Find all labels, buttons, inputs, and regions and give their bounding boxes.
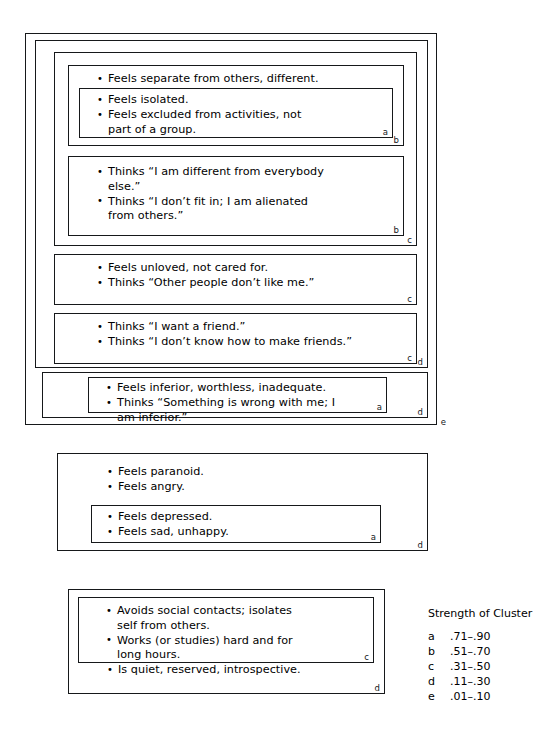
list-item: Feels paranoid. bbox=[107, 465, 407, 480]
legend-letter: e bbox=[428, 690, 450, 705]
item-list-g2-a: Feels depressed. Feels sad, unhappy. bbox=[107, 510, 367, 540]
legend-row: c .31–.50 bbox=[428, 660, 491, 675]
list-item: Thinks “I am different from everybody el… bbox=[97, 165, 397, 194]
list-item: Feels inferior, worthless, inadequate. bbox=[106, 381, 376, 396]
cluster-tag-g2-a: a bbox=[371, 533, 376, 542]
item-list-b-top: Feels separate from others, different. bbox=[97, 72, 397, 87]
list-item: Feels sad, unhappy. bbox=[107, 525, 367, 540]
list-item: Thinks “I want a friend.” bbox=[97, 320, 407, 335]
item-list-g3-c: Avoids social contacts; isolates self fr… bbox=[106, 604, 356, 663]
legend-letter: b bbox=[428, 645, 450, 660]
list-item: Feels angry. bbox=[107, 480, 407, 495]
legend-range: .11–.30 bbox=[450, 675, 491, 690]
list-item: Thinks “I don’t know how to make friends… bbox=[97, 335, 407, 350]
cluster-tag-c-upper: c bbox=[407, 236, 412, 245]
cluster-tag-a-bottom: a bbox=[377, 403, 382, 412]
list-item: Feels separate from others, different. bbox=[97, 72, 397, 87]
cluster-tag-g2-d: d bbox=[418, 541, 423, 550]
list-item: Feels isolated. bbox=[97, 93, 382, 108]
cluster-tag-b-top: b bbox=[394, 136, 399, 145]
item-list-g3-d: Is quiet, reserved, introspective. bbox=[107, 663, 367, 678]
cluster-box-g3-c: c Avoids social contacts; isolates self … bbox=[78, 597, 374, 663]
cluster-tag-e: e bbox=[441, 418, 446, 427]
legend-letter: c bbox=[428, 660, 450, 675]
legend-range: .01–.10 bbox=[450, 690, 491, 705]
cluster-box-a-top: a Feels isolated. Feels excluded from ac… bbox=[79, 88, 393, 138]
list-item: Thinks “I don’t fit in; I am alienated f… bbox=[97, 195, 397, 224]
list-item: Works (or studies) hard and for long hou… bbox=[106, 634, 356, 663]
legend-letter: d bbox=[428, 675, 450, 690]
item-list-c-third: Feels unloved, not cared for. Thinks “Ot… bbox=[97, 261, 407, 291]
legend-row: b .51–.70 bbox=[428, 645, 491, 660]
cluster-tag-c-fourth: c bbox=[407, 354, 412, 363]
legend-table: a .71–.90 b .51–.70 c .31–.50 d .11–.30 … bbox=[428, 630, 491, 705]
item-list-a-top: Feels isolated. Feels excluded from acti… bbox=[97, 93, 382, 138]
legend-row: d .11–.30 bbox=[428, 675, 491, 690]
list-item: Avoids social contacts; isolates self fr… bbox=[106, 604, 356, 633]
cluster-tag-g3-c: c bbox=[364, 653, 369, 662]
cluster-tag-a-top: a bbox=[383, 128, 388, 137]
cluster-box-c-third: c Feels unloved, not cared for. Thinks “… bbox=[54, 254, 417, 305]
list-item: Feels depressed. bbox=[107, 510, 367, 525]
item-list-c-fourth: Thinks “I want a friend.” Thinks “I don’… bbox=[97, 320, 407, 350]
legend-row: e .01–.10 bbox=[428, 690, 491, 705]
item-list-a-bottom: Feels inferior, worthless, inadequate. T… bbox=[106, 381, 376, 426]
cluster-box-g2-a: a Feels depressed. Feels sad, unhappy. bbox=[91, 505, 381, 543]
cluster-tag-b-second: b bbox=[394, 226, 399, 235]
list-item: Thinks “Something is wrong with me; I am… bbox=[106, 396, 376, 425]
legend: Strength of Cluster a .71–.90 b .51–.70 … bbox=[428, 607, 532, 705]
cluster-tag-g3-d: d bbox=[375, 684, 380, 693]
legend-title: Strength of Cluster bbox=[428, 607, 532, 620]
legend-row: a .71–.90 bbox=[428, 630, 491, 645]
list-item: Is quiet, reserved, introspective. bbox=[107, 663, 367, 678]
legend-letter: a bbox=[428, 630, 450, 645]
cluster-tag-d-lower: d bbox=[418, 408, 423, 417]
cluster-tag-d-upper: d bbox=[418, 358, 423, 367]
legend-range: .51–.70 bbox=[450, 645, 491, 660]
list-item: Feels unloved, not cared for. bbox=[97, 261, 407, 276]
cluster-box-a-bottom: a Feels inferior, worthless, inadequate.… bbox=[88, 377, 387, 413]
cluster-tag-c-third: c bbox=[407, 295, 412, 304]
cluster-box-b-second: b Thinks “I am different from everybody … bbox=[68, 156, 404, 236]
legend-range: .71–.90 bbox=[450, 630, 491, 645]
item-list-g2-d: Feels paranoid. Feels angry. bbox=[107, 465, 407, 495]
list-item: Feels excluded from activities, not part… bbox=[97, 108, 382, 137]
cluster-box-c-fourth: c Thinks “I want a friend.” Thinks “I do… bbox=[54, 313, 417, 364]
list-item: Thinks “Other people don’t like me.” bbox=[97, 276, 407, 291]
legend-range: .31–.50 bbox=[450, 660, 491, 675]
item-list-b-second: Thinks “I am different from everybody el… bbox=[97, 165, 397, 224]
